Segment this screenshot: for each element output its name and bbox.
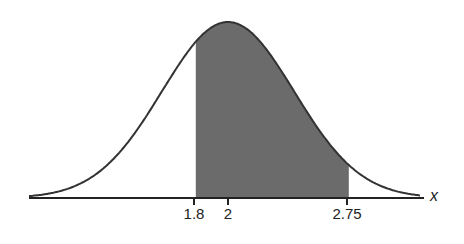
tick-label-1.8: 1.8	[184, 205, 205, 222]
x-axis-label: x	[430, 187, 438, 205]
tick-label-2: 2	[224, 205, 232, 222]
tick-label-2.75: 2.75	[332, 205, 361, 222]
shaded-area	[196, 22, 349, 198]
axis-ticks	[194, 198, 347, 205]
